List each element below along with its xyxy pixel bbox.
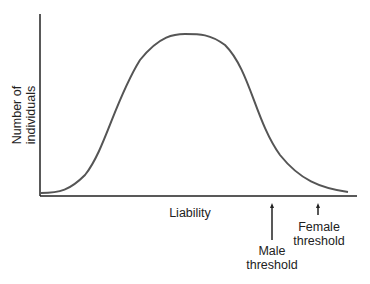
male-arrowhead-icon bbox=[270, 203, 274, 208]
y-axis-label: Number of individuals bbox=[10, 55, 38, 175]
male-threshold-label: Male threshold bbox=[244, 244, 300, 272]
female-label-line2: threshold bbox=[290, 234, 348, 248]
distribution-curve bbox=[41, 34, 348, 193]
female-arrowhead-icon bbox=[316, 203, 320, 208]
x-axis-label: Liability bbox=[160, 206, 220, 220]
female-threshold-label: Female threshold bbox=[290, 220, 348, 248]
female-label-line1: Female bbox=[290, 220, 348, 234]
male-label-line2: threshold bbox=[244, 258, 300, 272]
